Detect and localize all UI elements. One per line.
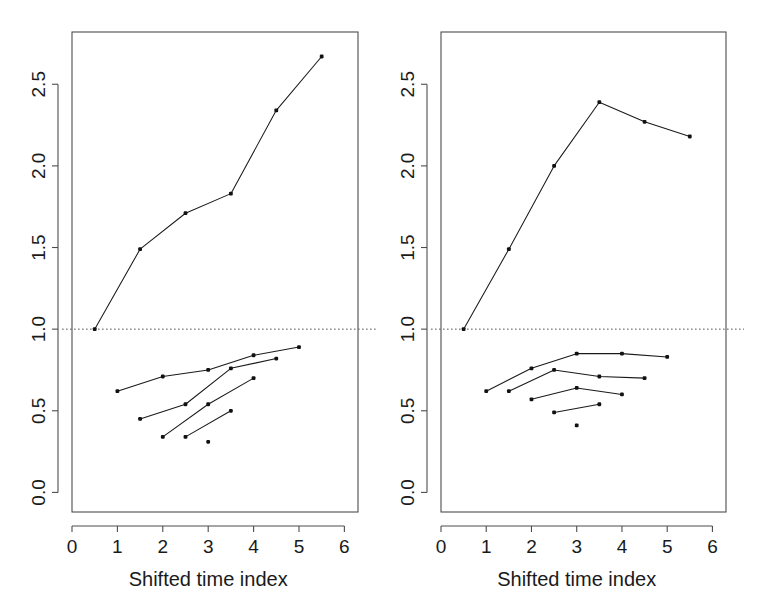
y-tick-label-4: 2.0 [397,153,418,179]
plot-frame-right [441,32,726,512]
data-point [507,389,511,393]
y-tick-label-5: 2.5 [397,71,418,97]
data-point [530,366,534,370]
series-layer-left [93,55,324,444]
y-tick-label-3: 1.5 [397,234,418,260]
chart-svg-right: 01234560.00.51.01.52.02.5 Shifted time i… [383,0,766,613]
chart-panel-left: 01234560.00.51.01.52.02.5 Shifted time i… [0,0,383,613]
data-point [620,393,624,397]
x-tick-label-4: 4 [617,536,628,557]
data-point [462,327,466,331]
y-tick-label-4: 2.0 [28,153,49,179]
data-point [297,345,301,349]
data-point [552,368,556,372]
x-tick-label-3: 3 [203,536,214,557]
chart-panel-right: 01234560.00.51.01.52.02.5 Shifted time i… [383,0,766,613]
y-tick-label-2: 1.0 [28,316,49,342]
data-point [138,417,142,421]
data-point [620,352,624,356]
series-line-upper-trajectory [95,56,322,329]
x-tick-label-0: 0 [436,536,447,557]
y-tick-label-1: 0.5 [28,398,49,424]
y-tick-label-0: 0.0 [28,479,49,505]
x-tick-label-0: 0 [67,536,78,557]
x-tick-label-6: 6 [707,536,718,557]
x-tick-label-4: 4 [248,536,259,557]
data-point [252,376,256,380]
data-point [597,375,601,379]
x-tick-label-2: 2 [158,536,169,557]
data-point [575,352,579,356]
x-tick-label-1: 1 [112,536,123,557]
data-point [665,355,669,359]
data-point [530,397,534,401]
data-point [274,108,278,112]
axis-layer-right: 01234560.00.51.01.52.02.5 [397,71,718,557]
data-point [252,353,256,357]
data-point [507,247,511,251]
data-point [206,402,210,406]
data-point [274,357,278,361]
data-point [206,440,210,444]
data-point [184,435,188,439]
figure-canvas: 01234560.00.51.01.52.02.5 Shifted time i… [0,0,766,613]
x-tick-label-1: 1 [481,536,492,557]
data-point [597,100,601,104]
x-tick-label-5: 5 [662,536,673,557]
data-point [161,435,165,439]
data-point [161,375,165,379]
y-tick-label-2: 1.0 [397,316,418,342]
data-point [229,366,233,370]
data-point [597,402,601,406]
series-line-lower-trajectory-4 [554,404,599,412]
series-line-upper-trajectory [464,102,690,329]
data-point [643,376,647,380]
data-point [575,386,579,390]
series-line-lower-trajectory-1 [486,354,667,392]
data-point [93,327,97,331]
y-tick-label-5: 2.5 [28,71,49,97]
series-line-lower-trajectory-4 [185,411,230,437]
data-point [552,411,556,415]
data-point [229,192,233,196]
y-tick-label-0: 0.0 [397,479,418,505]
series-layer-right [462,100,692,427]
chart-svg-left: 01234560.00.51.01.52.02.5 Shifted time i… [0,0,383,613]
data-point [138,247,142,251]
data-point [184,402,188,406]
x-tick-label-5: 5 [294,536,305,557]
x-tick-label-3: 3 [571,536,582,557]
plot-frame-left [72,32,358,512]
y-tick-label-3: 1.5 [28,234,49,260]
data-point [320,55,324,59]
x-axis-title-left: Shifted time index [129,568,288,590]
data-point [484,389,488,393]
data-point [575,424,579,428]
x-tick-label-6: 6 [339,536,350,557]
data-point [688,135,692,139]
data-point [206,368,210,372]
x-axis-title-right: Shifted time index [497,568,656,590]
data-point [229,409,233,413]
y-tick-label-1: 0.5 [397,398,418,424]
axis-layer-left: 01234560.00.51.01.52.02.5 [28,71,350,557]
data-point [116,389,120,393]
data-point [184,211,188,215]
data-point [643,120,647,124]
data-point [552,164,556,168]
x-tick-label-2: 2 [526,536,537,557]
series-line-lower-trajectory-2 [140,359,276,419]
